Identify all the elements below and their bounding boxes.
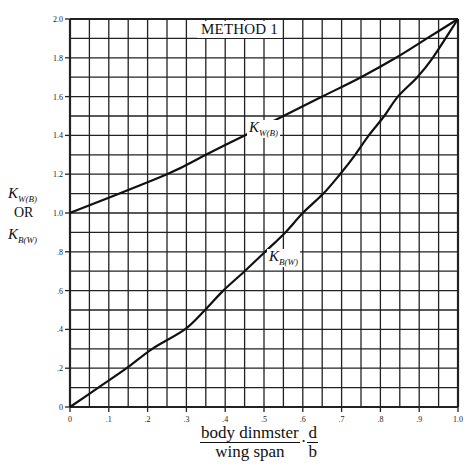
y-tick-label: 1.0 [53, 209, 63, 218]
x-tick-label: 1.0 [453, 415, 463, 424]
x-tick-label: .3 [183, 415, 189, 424]
y-axis-label-kwb: KW(B) [8, 186, 37, 204]
y-tick-label: 0 [59, 403, 63, 412]
y-tick-label: .8 [57, 248, 63, 257]
y-axis-label-kbw: KB(W) [8, 227, 37, 245]
x-tick-label: .1 [106, 415, 112, 424]
x-tick-label: .6 [300, 415, 306, 424]
x-tick-label: .7 [339, 415, 345, 424]
x-tick-label: .8 [377, 415, 383, 424]
axis-ticks: 0.2.4.6.81.01.21.41.61.82.00.1.2.3.4.5.6… [53, 15, 463, 424]
y-tick-label: 1.6 [53, 93, 63, 102]
curve-label-kbw: KB(W) [267, 249, 300, 267]
x-tick-label: 0 [68, 415, 72, 424]
chart-plot: 0.2.4.6.81.01.21.41.61.82.00.1.2.3.4.5.6… [0, 0, 469, 472]
y-axis-label-or: OR [14, 205, 33, 221]
x-axis-fraction-symbols: d b [307, 424, 318, 461]
y-tick-label: .4 [57, 325, 63, 334]
x-tick-label: .9 [416, 415, 422, 424]
y-tick-label: 1.8 [53, 54, 63, 63]
grid-lines [70, 19, 458, 407]
y-tick-label: 2.0 [53, 15, 63, 24]
x-axis-fraction-words: body dinmster wing span [200, 424, 300, 461]
y-tick-label: .2 [57, 364, 63, 373]
curve-label-kwb: KW(B) [247, 120, 280, 138]
y-tick-label: .6 [57, 287, 63, 296]
y-tick-label: 1.2 [53, 170, 63, 179]
x-tick-label: .2 [145, 415, 151, 424]
x-axis-label: body dinmster wing span · d b [200, 424, 318, 461]
y-tick-label: 1.4 [53, 131, 63, 140]
chart-title: METHOD 1 [197, 21, 282, 38]
